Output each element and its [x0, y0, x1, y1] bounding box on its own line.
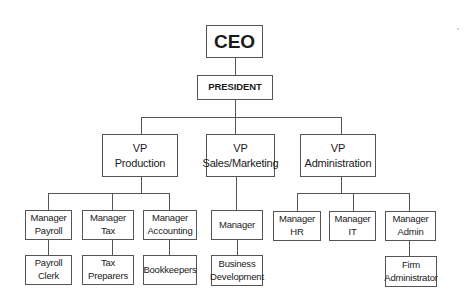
- node-label: Business: [219, 258, 256, 271]
- connector-firm-admin: [409, 241, 410, 256]
- connector-mgr-it: [353, 193, 354, 211]
- connector-tax-preparers: [112, 240, 113, 255]
- node-label: Clerk: [38, 270, 59, 283]
- node-label: Tax: [101, 225, 115, 238]
- connector-mgr-accounting: [169, 193, 170, 210]
- node-label: VP: [233, 141, 247, 156]
- connector-mgr-hr: [297, 193, 298, 211]
- connector-vp-sales: [235, 117, 236, 134]
- node-label: Manager: [334, 213, 370, 226]
- node-label: VP: [331, 141, 345, 156]
- node-label: Sales/Marketing: [203, 156, 279, 171]
- connector-sales-manager: [236, 177, 237, 210]
- node-tax-preparers: Tax Preparers: [82, 255, 134, 285]
- node-label: CEO: [214, 29, 255, 55]
- node-manager-accounting: Manager Accounting: [143, 210, 197, 240]
- node-label: Tax Preparers: [83, 257, 133, 283]
- node-manager-sales: Manager: [211, 210, 263, 240]
- node-label: Manager: [30, 212, 66, 225]
- connector-mgr-admin: [409, 193, 410, 211]
- node-label: Production: [115, 156, 166, 171]
- node-label: VP: [133, 141, 147, 156]
- node-label: PRESIDENT: [208, 81, 261, 94]
- connector-ceo-president: [235, 58, 236, 75]
- node-label: Manager: [152, 212, 188, 225]
- connector-vp-admin: [341, 117, 342, 134]
- node-label: Administrator: [384, 272, 437, 285]
- connector-admin-down: [341, 177, 342, 193]
- node-vp-administration: VP Administration: [300, 134, 376, 177]
- node-label: Manager: [219, 219, 255, 232]
- node-business-development: Business Development: [211, 255, 263, 286]
- node-ceo: CEO: [206, 25, 263, 58]
- node-manager-tax: Manager Tax: [82, 210, 134, 240]
- node-label: HR: [290, 226, 303, 239]
- node-label: Firm: [402, 259, 420, 272]
- node-label: Payroll: [35, 225, 63, 238]
- node-president: PRESIDENT: [197, 75, 273, 100]
- node-label: Payroll: [35, 257, 63, 270]
- connector-business-dev: [237, 240, 238, 255]
- node-label: IT: [348, 226, 356, 239]
- node-label: Administration: [305, 156, 372, 171]
- connector-bookkeepers: [169, 240, 170, 255]
- node-label: Manager: [279, 213, 315, 226]
- node-payroll-clerk: Payroll Clerk: [25, 255, 72, 285]
- node-label: Admin: [398, 226, 424, 239]
- node-vp-sales-marketing: VP Sales/Marketing: [206, 134, 275, 177]
- node-manager-hr: Manager HR: [273, 211, 321, 241]
- connector-president-down: [235, 100, 236, 117]
- node-vp-production: VP Production: [102, 134, 178, 177]
- connector-vp-production: [141, 117, 142, 134]
- node-manager-it: Manager IT: [329, 211, 376, 241]
- node-label: Bookkeepers: [143, 264, 196, 277]
- node-firm-administrator: Firm Administrator: [385, 256, 437, 287]
- node-label: Manager: [90, 212, 126, 225]
- connector-vp-bus: [141, 117, 342, 118]
- connector-production-down: [141, 177, 142, 193]
- node-bookkeepers: Bookkeepers: [143, 255, 197, 285]
- node-manager-admin: Manager Admin: [385, 211, 436, 241]
- connector-mgr-payroll: [48, 193, 49, 210]
- node-label: Development: [210, 271, 264, 284]
- node-manager-payroll: Manager Payroll: [25, 210, 72, 240]
- connector-mgr-tax: [112, 193, 113, 210]
- node-label: Manager: [392, 213, 428, 226]
- node-label: Accounting: [147, 225, 192, 238]
- connector-production-bus: [48, 193, 170, 194]
- image-artifact: [457, 28, 459, 30]
- connector-payroll-clerk: [48, 240, 49, 255]
